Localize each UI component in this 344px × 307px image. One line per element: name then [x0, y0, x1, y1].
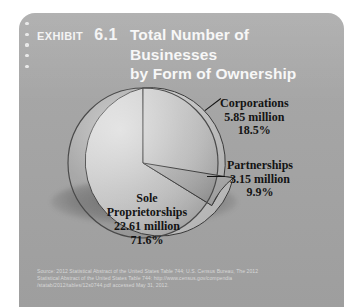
partnerships-percent: 9.9% — [227, 186, 293, 200]
source-line-2: Statistical Abstract of the United State… — [37, 275, 326, 282]
data-label-corporations: Corporations 5.85 million 18.5% — [220, 97, 289, 138]
pie-chart: Corporations 5.85 million 18.5% Partners… — [19, 75, 344, 280]
sole-percent: 71.6% — [71, 233, 223, 247]
sole-value: 22.61 million — [71, 219, 223, 233]
source-citation: Source: 2012 Statistical Abstract of the… — [37, 268, 326, 289]
dot-icon — [25, 65, 28, 68]
exhibit-number: 6.1 — [94, 25, 118, 44]
corporations-name: Corporations — [220, 97, 289, 111]
leader-line-partnerships — [207, 176, 225, 177]
dot-icon — [25, 43, 28, 46]
exhibit-figure: Exhibit 6.1 Total Number of Businesses b… — [0, 0, 344, 307]
source-line-1: Source: 2012 Statistical Abstract of the… — [37, 268, 326, 275]
exhibit-panel: Exhibit 6.1 Total Number of Businesses b… — [19, 13, 344, 307]
data-label-sole-proprietorships: Sole Proprietorships 22.61 million 71.6% — [71, 191, 223, 247]
sole-name-line-1: Sole — [71, 191, 223, 205]
sole-name-line-2: Proprietorships — [71, 205, 223, 219]
corporations-percent: 18.5% — [220, 124, 289, 138]
partnerships-value: 3.15 million — [227, 173, 293, 187]
dot-icon — [25, 54, 28, 57]
exhibit-label: Exhibit — [37, 25, 83, 44]
corporations-value: 5.85 million — [220, 111, 289, 125]
dot-column-decoration — [23, 22, 31, 68]
source-line-3: /statab/2012/tables/12s0744.pdf accessed… — [37, 282, 326, 289]
title-line-1: Total Number of Businesses — [130, 26, 249, 63]
dot-icon — [25, 22, 28, 25]
dot-icon — [25, 33, 28, 36]
data-label-partnerships: Partnerships 3.15 million 9.9% — [227, 159, 293, 200]
partnerships-name: Partnerships — [227, 159, 293, 173]
